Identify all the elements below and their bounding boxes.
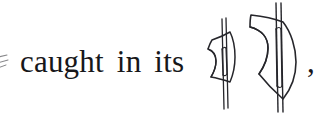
document-fragment-page: caught in its — [0, 0, 325, 117]
left-edge-partial-glyph — [0, 52, 14, 76]
text-line: caught in its — [20, 42, 184, 82]
glyph-sail-large — [243, 0, 315, 117]
word-its: its — [154, 42, 184, 82]
word-caught: caught — [20, 42, 104, 82]
trailing-comma: , — [307, 42, 315, 82]
word-in: in — [117, 42, 142, 82]
